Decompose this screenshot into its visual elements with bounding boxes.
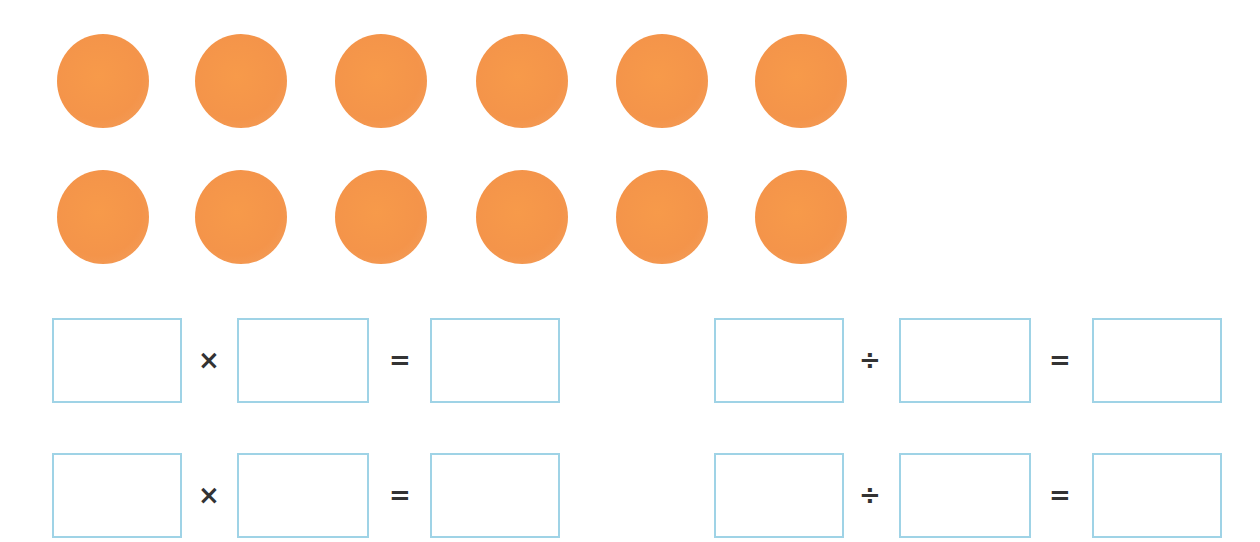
counter-dot xyxy=(195,34,287,128)
equals-sign: = xyxy=(389,347,411,373)
multiplication-1-answer-box-3[interactable] xyxy=(430,318,560,403)
multiplication-1-answer-box-2[interactable] xyxy=(237,318,369,403)
multiplication-2-answer-box-1[interactable] xyxy=(52,453,182,538)
counter-dot xyxy=(57,34,149,128)
division-1-answer-box-1[interactable] xyxy=(714,318,844,403)
counter-dot xyxy=(476,34,568,128)
divide-sign: ÷ xyxy=(859,347,881,373)
counter-dot xyxy=(755,34,847,128)
counter-dot xyxy=(755,170,847,264)
equals-sign: = xyxy=(1049,347,1071,373)
division-1-answer-box-2[interactable] xyxy=(899,318,1031,403)
counter-dot xyxy=(476,170,568,264)
counter-dot xyxy=(335,34,427,128)
division-1-answer-box-3[interactable] xyxy=(1092,318,1222,403)
divide-sign: ÷ xyxy=(859,482,881,508)
multiplication-2-answer-box-2[interactable] xyxy=(237,453,369,538)
multiplication-2-answer-box-3[interactable] xyxy=(430,453,560,538)
counter-dot xyxy=(195,170,287,264)
counter-dot xyxy=(616,34,708,128)
multiplication-1-answer-box-1[interactable] xyxy=(52,318,182,403)
counter-dot xyxy=(335,170,427,264)
division-2-answer-box-2[interactable] xyxy=(899,453,1031,538)
counter-dot xyxy=(57,170,149,264)
division-2-answer-box-3[interactable] xyxy=(1092,453,1222,538)
equals-sign: = xyxy=(389,482,411,508)
times-sign: × xyxy=(198,482,220,508)
counter-dot xyxy=(616,170,708,264)
division-2-answer-box-1[interactable] xyxy=(714,453,844,538)
times-sign: × xyxy=(198,347,220,373)
equals-sign: = xyxy=(1049,482,1071,508)
